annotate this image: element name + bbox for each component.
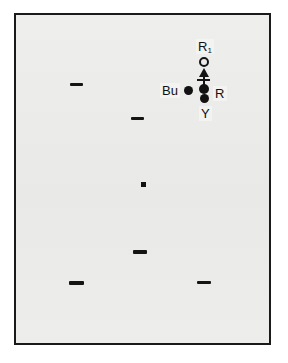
r1-open-spot xyxy=(199,57,209,67)
center-spot xyxy=(141,182,146,187)
plate-surface xyxy=(16,15,269,343)
bu-spot xyxy=(184,86,193,95)
band-bottom-left xyxy=(69,281,84,285)
r-spot-lower xyxy=(200,94,209,103)
label-r1: R1 xyxy=(196,39,214,54)
migration-arrow-crossbar xyxy=(197,79,210,81)
band-lower-mid xyxy=(133,250,147,254)
band-bottom-right xyxy=(197,281,211,284)
band-upper-left xyxy=(70,83,83,86)
label-bu: Bu xyxy=(160,83,180,98)
r-spot-upper xyxy=(199,84,209,94)
label-r: R xyxy=(213,86,227,101)
label-r1-text: R xyxy=(198,39,208,54)
chromatography-plate xyxy=(14,13,271,345)
figure-canvas: R1 Bu R Y xyxy=(0,0,288,363)
band-mid-left xyxy=(131,117,144,120)
label-r1-subscript: 1 xyxy=(208,46,213,55)
label-y: Y xyxy=(199,106,212,121)
